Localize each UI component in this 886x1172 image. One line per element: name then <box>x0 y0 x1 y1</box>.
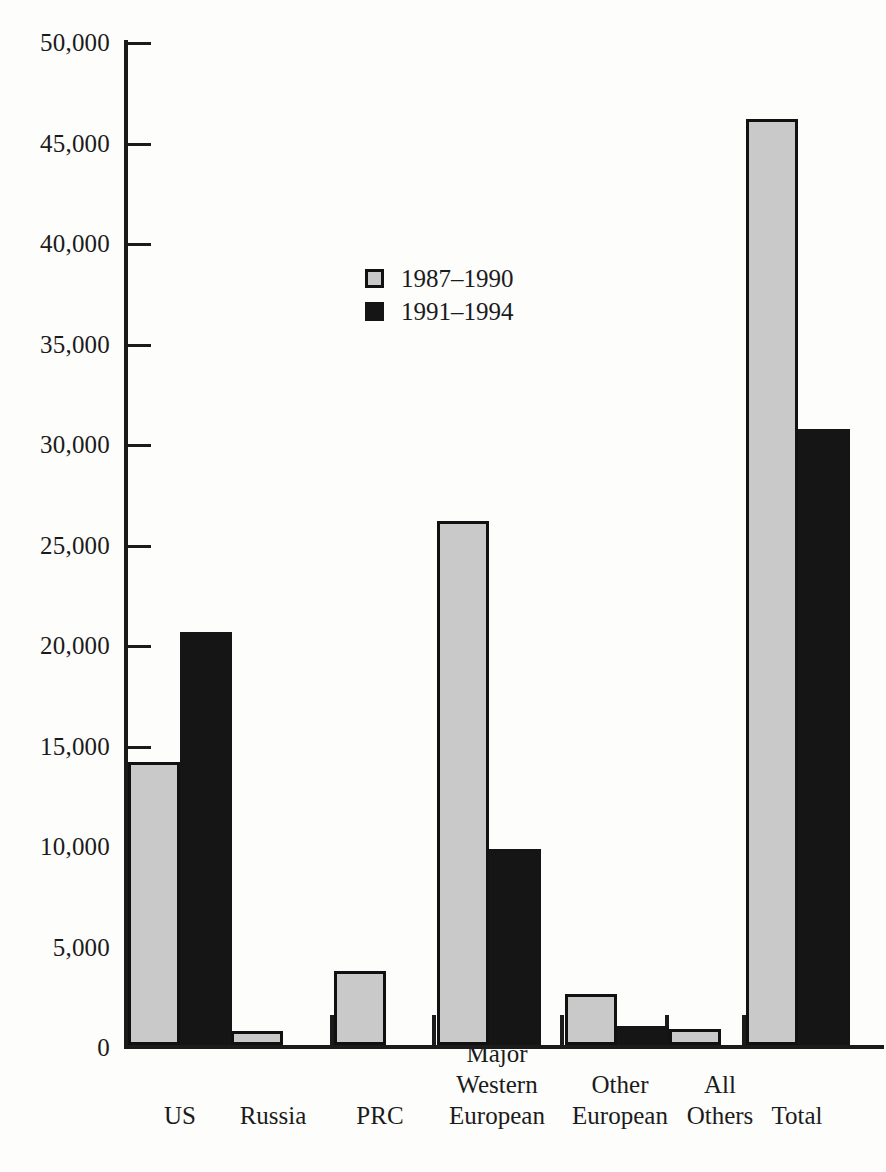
legend-label-1991-1994: 1991–1994 <box>401 298 514 326</box>
category-label-prc: PRC <box>330 1100 430 1131</box>
bar-us-1991-1994 <box>180 632 232 1045</box>
category-label-total: Total <box>742 1100 852 1131</box>
legend-item-1987-1990: 1987–1990 <box>365 262 514 295</box>
plot-area <box>0 0 886 1172</box>
category-label-us-line-1: US <box>130 1100 230 1131</box>
legend-swatch-black-square-icon <box>365 302 384 321</box>
category-label-prc-line-1: PRC <box>330 1100 430 1131</box>
category-label-major-western-european-line-2: Western <box>427 1069 567 1100</box>
bar-total-1991-1994 <box>798 429 850 1045</box>
category-label-total-line-1: Total <box>742 1100 852 1131</box>
legend-label-1987-1990: 1987–1990 <box>401 265 514 293</box>
bar-russia-1987-1990 <box>231 1031 283 1045</box>
category-label-major-western-european-line-1: Major <box>427 1038 567 1069</box>
bar-total-1987-1990 <box>746 119 798 1045</box>
bar-us-1987-1990 <box>128 762 180 1045</box>
legend-swatch-light-gray-square-icon <box>365 269 384 288</box>
category-label-us: US <box>130 1100 230 1131</box>
bar-chart: 50,000 45,000 40,000 35,000 30,000 25,00… <box>0 0 886 1172</box>
bar-major-western-european-1987-1990 <box>437 521 489 1045</box>
bar-other-european-1991-1994 <box>617 1026 669 1045</box>
bar-major-western-european-1991-1994 <box>489 849 541 1045</box>
category-label-all-others-line-1: All <box>660 1069 780 1100</box>
bar-prc-1987-1990 <box>334 971 386 1045</box>
legend: 1987–1990 1991–1994 <box>365 262 514 328</box>
category-label-major-western-european-line-3: European <box>427 1100 567 1131</box>
category-label-russia: Russia <box>218 1100 328 1131</box>
legend-item-1991-1994: 1991–1994 <box>365 295 514 328</box>
category-label-russia-line-1: Russia <box>218 1100 328 1131</box>
bar-other-european-1987-1990 <box>565 994 617 1045</box>
category-label-major-western-european: Major Western European <box>427 1038 567 1131</box>
bar-all-others-1987-1990 <box>669 1029 721 1045</box>
